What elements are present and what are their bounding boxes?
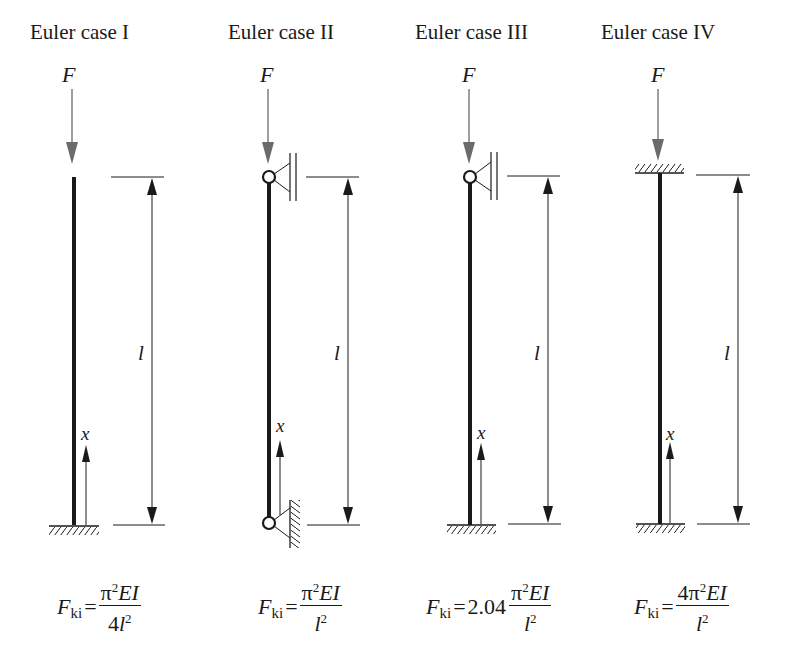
- force-arrow-icon: [652, 89, 664, 161]
- x-axis-arrow-icon: [276, 440, 284, 515]
- formula-subscript: ki: [439, 605, 451, 622]
- fixed-support-icon: [49, 526, 99, 535]
- length-label: l: [534, 341, 540, 365]
- force-arrow-icon: [262, 89, 274, 164]
- formula-fraction: π2EI l2: [509, 576, 551, 638]
- case-4-diagram: F x l: [635, 62, 750, 533]
- formula-equals: =: [285, 594, 297, 620]
- length-label: l: [334, 341, 340, 365]
- x-label: x: [476, 422, 486, 443]
- formula-equals: =: [453, 594, 465, 620]
- case-2-formula: Fki = π2EI l2: [258, 576, 342, 638]
- force-arrow-icon: [66, 89, 78, 164]
- pi: π: [689, 580, 700, 605]
- formula-subscript: ki: [647, 605, 659, 622]
- formula-fraction: 4π2EI l2: [676, 576, 729, 638]
- formula-equals: =: [661, 594, 673, 620]
- length-label: l: [138, 341, 144, 365]
- length-dimension: [306, 177, 360, 525]
- den-coef: 4: [108, 612, 119, 637]
- x-axis-arrow-icon: [477, 443, 485, 524]
- formula-lhs: F: [426, 594, 439, 620]
- x-label: x: [80, 423, 90, 444]
- formula-lhs: F: [57, 594, 70, 620]
- ei: EI: [706, 580, 727, 605]
- force-label: F: [461, 62, 476, 87]
- fixed-support-icon: [447, 525, 496, 534]
- den-exp: 2: [530, 611, 537, 626]
- pi: π: [511, 580, 522, 605]
- formula-fraction: π2EI l2: [300, 576, 342, 638]
- den-exp: 2: [125, 611, 132, 626]
- x-axis-arrow-icon: [82, 445, 90, 525]
- case-1-formula: Fki = π2EI 4l2: [57, 576, 141, 638]
- pi: π: [101, 580, 112, 605]
- formula-lhs: F: [258, 594, 271, 620]
- formula-subscript: ki: [271, 605, 283, 622]
- x-label: x: [275, 415, 285, 436]
- case-2-diagram: F x: [259, 62, 360, 548]
- ei: EI: [118, 580, 139, 605]
- length-label: l: [724, 341, 730, 365]
- force-arrow-icon: [463, 89, 475, 164]
- case-3-diagram: F x l: [447, 62, 561, 534]
- case-1-diagram: F x l: [49, 62, 165, 535]
- formula-fraction: π2EI 4l2: [99, 576, 141, 638]
- x-label: x: [665, 423, 675, 444]
- force-label: F: [61, 62, 76, 87]
- length-dimension: [696, 175, 750, 524]
- formula-lhs: F: [634, 594, 647, 620]
- den-exp: 2: [321, 611, 328, 626]
- fixed-support-bottom-icon: [636, 524, 685, 533]
- pi: π: [302, 580, 313, 605]
- force-label: F: [259, 62, 274, 87]
- x-axis-arrow-icon: [666, 442, 674, 523]
- case-3-formula: Fki = 2.04 π2EI l2: [426, 576, 551, 638]
- formula-coefficient: 2.04: [468, 594, 507, 620]
- formula-equals: =: [84, 594, 96, 620]
- fixed-support-top-icon: [635, 164, 684, 173]
- ei: EI: [319, 580, 340, 605]
- den-exp: 2: [702, 611, 709, 626]
- formula-subscript: ki: [70, 605, 82, 622]
- num-coef: 4: [678, 580, 689, 605]
- force-label: F: [650, 62, 665, 87]
- euler-cases-diagram: F x l F: [0, 0, 788, 664]
- ei: EI: [529, 580, 550, 605]
- case-4-formula: Fki = 4π2EI l2: [634, 576, 729, 638]
